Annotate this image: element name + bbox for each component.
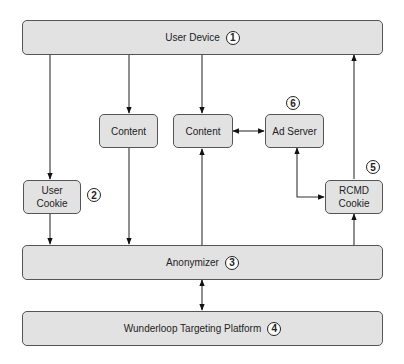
- step-number-badge: 2: [87, 188, 101, 202]
- node-label: Content: [185, 125, 220, 138]
- step-number-badge: 5: [366, 160, 380, 174]
- step-number-badge: 4: [267, 322, 281, 336]
- step-number-badge: 1: [226, 31, 240, 45]
- node-rcmd-cookie: RCMD Cookie: [325, 180, 383, 214]
- node-user-cookie: User Cookie: [23, 180, 81, 214]
- node-label: User Cookie: [36, 184, 67, 210]
- node-label: User Device: [165, 31, 219, 44]
- node-content-right: Content: [173, 114, 233, 148]
- step-number-badge: 3: [225, 256, 239, 270]
- node-label: Wunderloop Targeting Platform: [124, 322, 262, 335]
- node-label: Content: [111, 125, 146, 138]
- edge-adserver-rcmd: [297, 148, 324, 197]
- node-content-left: Content: [99, 114, 158, 148]
- node-anonymizer: Anonymizer 3: [22, 245, 383, 280]
- node-user-device: User Device 1: [22, 20, 383, 55]
- node-label: RCMD Cookie: [338, 184, 369, 210]
- step-number-badge: 6: [286, 96, 300, 110]
- node-label: Ad Server: [272, 125, 316, 138]
- node-wunderloop-platform: Wunderloop Targeting Platform 4: [22, 311, 383, 346]
- node-label: Anonymizer: [166, 256, 219, 269]
- node-ad-server: Ad Server: [265, 114, 324, 148]
